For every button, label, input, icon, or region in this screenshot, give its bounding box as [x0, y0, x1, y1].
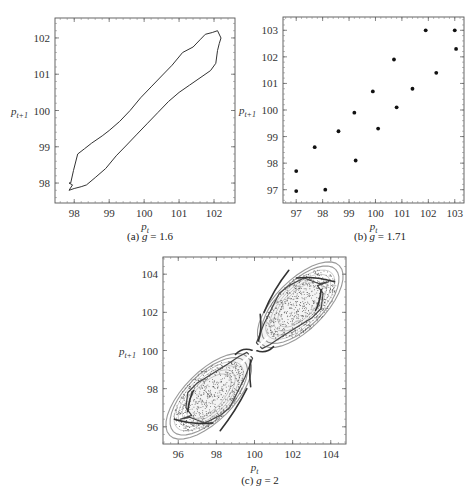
x-tick-label: 100 [246, 448, 263, 460]
y-tick-label: 102 [142, 306, 159, 318]
caption-value: = 2 [264, 474, 278, 486]
x-tick-label: 96 [173, 448, 185, 460]
x-tick-label: 98 [211, 448, 223, 460]
y-tick-label: 100 [142, 345, 159, 357]
y-tick-label: 104 [142, 268, 159, 280]
y-tick-label: 96 [147, 421, 159, 433]
attractor-arc [250, 360, 251, 387]
y-tick-label: 98 [147, 383, 159, 395]
chart-c-plot: 96981001021049698100102104ptpt+1 [0, 0, 476, 495]
y-axis-label: pt+1 [118, 345, 136, 360]
x-tick-label: 104 [323, 448, 340, 460]
x-tick-label: 102 [284, 448, 301, 460]
chart-c-caption: (c) g = 2 [210, 474, 310, 486]
caption-var: g [256, 474, 262, 486]
attractor [166, 262, 343, 439]
chart-panel-c: 96981001021049698100102104ptpt+1 (c) g =… [0, 0, 476, 495]
caption-prefix: (c) [241, 474, 253, 486]
